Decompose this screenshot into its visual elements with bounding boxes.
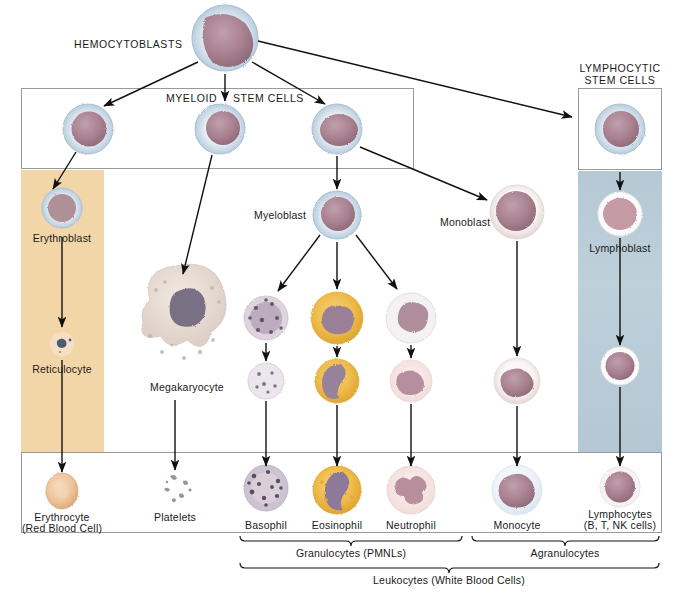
cell-myeloblast <box>313 191 361 239</box>
arrow-stem1-to-erythroblast <box>53 152 76 189</box>
cell-basophil-pre <box>248 363 284 399</box>
basophil-label: Basophil <box>245 519 287 531</box>
neutrophil-label: Neutrophil <box>386 519 436 531</box>
cell-lymphocyte <box>600 467 640 507</box>
hematopoiesis-diagram: HEMOCYTOBLASTS MYELOID STEM CELLS LYMPHO… <box>0 0 677 599</box>
leukocytes-bracket <box>240 563 659 573</box>
cell-neutrophil <box>387 466 435 514</box>
lymphocytes-label-line2: (B, T, NK cells) <box>584 519 656 531</box>
arrow-stem2-to-megakaryocyte <box>183 155 212 274</box>
monocyte-label: Monocyte <box>493 519 540 531</box>
agranulocytes-bracket-label: Agranulocytes <box>530 547 599 559</box>
cell-basophil <box>244 465 288 511</box>
lymphocytic-stem-cells-label-line1: LYMPHOCYTIC <box>579 62 660 74</box>
cell-eosinophil <box>313 466 361 514</box>
cell-myeloid-stem-cell-1 <box>63 104 113 154</box>
lymphocytic-stem-cells-label-line2: STEM CELLS <box>585 74 656 86</box>
hemocytoblasts-label: HEMOCYTOBLASTS <box>74 38 182 50</box>
cell-monocyte <box>492 465 542 515</box>
cell-neutrophil-band <box>386 293 436 343</box>
cell-neutrophil-pre <box>390 360 432 402</box>
cell-lymphoblast <box>598 192 642 236</box>
eosinophil-label: Eosinophil <box>312 519 362 531</box>
agranulocytes-bracket <box>472 536 659 546</box>
cell-lymphocytic-stem-cell <box>595 104 645 154</box>
erythrocyte-label-line2: (Red Blood Cell) <box>22 522 102 534</box>
arrow-hemocytoblast-to-lymphocytic <box>258 41 572 117</box>
stem-cells-label: STEM CELLS <box>233 92 304 104</box>
cell-lymphocyte-mid <box>601 347 639 385</box>
lymphoblast-label: Lymphoblast <box>589 242 650 254</box>
myeloid-label: MYELOID <box>166 92 217 104</box>
cell-hemocytoblast <box>192 5 258 71</box>
arrow-stem3-to-monoblast <box>360 147 487 200</box>
diagram-vectors <box>0 0 677 599</box>
cell-monocyte-pre <box>494 358 540 404</box>
cell-myeloid-stem-cell-2 <box>195 104 245 154</box>
cell-erythroblast <box>42 188 82 228</box>
reticulocyte-label: Reticulocyte <box>32 363 92 375</box>
granulocytes-bracket-label: Granulocytes (PMNLs) <box>296 547 406 559</box>
erythroblast-label: Erythroblast <box>33 232 91 244</box>
cell-megakaryocyte <box>142 264 226 360</box>
cell-platelets <box>164 475 192 502</box>
cell-basophil-band <box>244 296 288 340</box>
cell-eosinophil-band <box>311 292 363 344</box>
monoblast-label: Monoblast <box>440 216 490 228</box>
arrow-myeloblast-to-neutrophil <box>356 235 397 289</box>
arrow-myeloblast-to-basophil <box>278 235 320 291</box>
platelets-label: Platelets <box>154 511 196 523</box>
cell-erythrocyte <box>46 473 78 509</box>
leukocytes-bracket-label: Leukocytes (White Blood Cells) <box>373 574 525 586</box>
myeloblast-label: Myeloblast <box>254 209 306 221</box>
cell-reticulocyte <box>50 332 74 356</box>
granulocytes-bracket <box>240 536 462 546</box>
cell-monoblast <box>490 185 544 239</box>
cell-eosinophil-pre <box>315 359 359 403</box>
megakaryocyte-label: Megakaryocyte <box>150 381 224 393</box>
cell-myeloid-stem-cell-3 <box>312 104 362 154</box>
